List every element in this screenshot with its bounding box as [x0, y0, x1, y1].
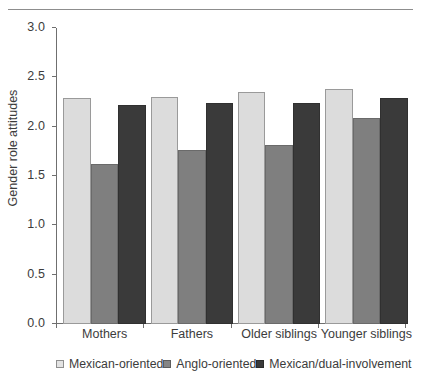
- y-tick-2.5: 2.5: [52, 76, 56, 77]
- y-axis-line: [56, 28, 57, 324]
- x-tick: [231, 324, 232, 328]
- bar-fathers-mexican-oriented: [151, 97, 179, 324]
- legend-item-mexican-oriented[interactable]: Mexican-oriented: [56, 357, 163, 371]
- x-tick: [56, 324, 57, 328]
- y-tick-1.5: 1.5: [52, 175, 56, 176]
- y-tick-label: 0.0: [27, 316, 45, 330]
- bar-older-siblings-anglo-oriented: [265, 145, 293, 324]
- x-axis-label-younger-siblings: Younger siblings: [321, 327, 412, 341]
- y-tick-label: 0.5: [27, 267, 45, 281]
- y-tick-1.0: 1.0: [52, 224, 56, 225]
- y-tick-2.0: 2.0: [52, 126, 56, 127]
- bar-mothers-mexican-dual-involvement: [118, 105, 146, 324]
- y-tick-label: 1.5: [27, 168, 45, 182]
- x-tick: [318, 324, 319, 328]
- bar-older-siblings-mexican-oriented: [238, 92, 266, 324]
- bar-fathers-anglo-oriented: [178, 150, 206, 324]
- bar-mothers-mexican-oriented: [63, 98, 91, 324]
- bar-older-siblings-mexican-dual-involvement: [293, 103, 321, 324]
- legend-swatch-gray-icon: [163, 360, 171, 368]
- legend-swatch-dark-icon: [256, 360, 264, 368]
- legend-item-mexican-dual-involvement[interactable]: Mexican/dual-involvement: [256, 357, 411, 371]
- x-axis-label-mothers: Mothers: [82, 327, 127, 341]
- legend-item-label: Mexican/dual-involvement: [269, 357, 411, 371]
- legend-swatch-light-icon: [56, 360, 64, 368]
- x-axis-label-fathers: Fathers: [171, 327, 213, 341]
- legend-item-label: Anglo-oriented: [176, 357, 256, 371]
- bar-mothers-anglo-oriented: [91, 164, 119, 324]
- bar-fathers-mexican-dual-involvement: [206, 103, 234, 324]
- y-axis-title-text: Gender role attitudes: [6, 90, 20, 207]
- chart-legend: Mexican-orientedAnglo-orientedMexican/du…: [56, 357, 408, 371]
- y-tick-label: 2.5: [27, 69, 45, 83]
- bar-younger-siblings-mexican-dual-involvement: [380, 98, 408, 324]
- top-divider-rule: [8, 9, 413, 10]
- y-tick-3.0: 3.0: [52, 27, 56, 28]
- plot-area: 0.00.51.01.52.02.53.0 MothersFathersOlde…: [56, 28, 405, 324]
- y-tick-label: 1.0: [27, 217, 45, 231]
- y-tick-0.5: 0.5: [52, 274, 56, 275]
- y-tick-label: 2.0: [27, 119, 45, 133]
- legend-item-label: Mexican-oriented: [69, 357, 163, 371]
- bar-younger-siblings-anglo-oriented: [353, 118, 381, 324]
- y-tick-label: 3.0: [27, 20, 45, 34]
- bar-younger-siblings-mexican-oriented: [325, 89, 353, 324]
- chart-figure: Gender role attitudes 0.00.51.01.52.02.5…: [0, 0, 422, 383]
- x-tick: [143, 324, 144, 328]
- x-axis-label-older-siblings: Older siblings: [241, 327, 317, 341]
- legend-item-anglo-oriented[interactable]: Anglo-oriented: [163, 357, 256, 371]
- y-axis-title: Gender role attitudes: [4, 0, 22, 296]
